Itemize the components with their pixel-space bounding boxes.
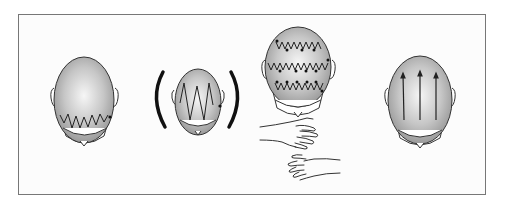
head-straight-strokes: [385, 56, 455, 148]
massage-illustration: [0, 0, 506, 210]
head-zigzag-large: [156, 69, 237, 135]
head-zigzag-back: [51, 57, 118, 146]
hands: [260, 118, 340, 180]
head-zigzag-rows: [262, 27, 335, 117]
